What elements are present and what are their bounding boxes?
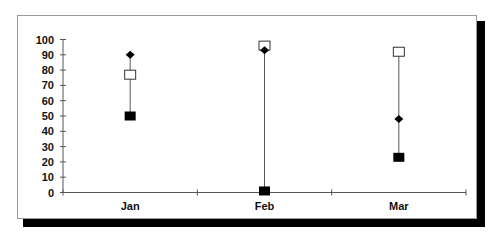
y-tick-label: 0 [48, 187, 54, 199]
y-tick-label: 40 [42, 125, 54, 137]
x-category-label: Mar [389, 200, 409, 212]
marker-filled-square [393, 153, 404, 162]
marker-filled-square [259, 186, 270, 195]
marker-diamond [126, 51, 135, 59]
marker-diamond [394, 115, 403, 123]
y-tick-label: 10 [42, 171, 54, 183]
marker-filled-square [125, 112, 136, 121]
y-tick-label: 60 [42, 95, 54, 107]
chart-plot: 0102030405060708090100JanFebMar [0, 0, 497, 241]
y-tick-label: 70 [42, 79, 54, 91]
y-tick-label: 80 [42, 64, 54, 76]
marker-open-square [393, 47, 404, 56]
y-tick-label: 50 [42, 110, 54, 122]
y-tick-label: 100 [36, 34, 54, 46]
y-tick-label: 30 [42, 141, 54, 153]
y-tick-label: 20 [42, 156, 54, 168]
x-category-label: Jan [121, 200, 140, 212]
marker-open-square [125, 70, 136, 79]
x-category-label: Feb [255, 200, 275, 212]
y-tick-label: 90 [42, 49, 54, 61]
